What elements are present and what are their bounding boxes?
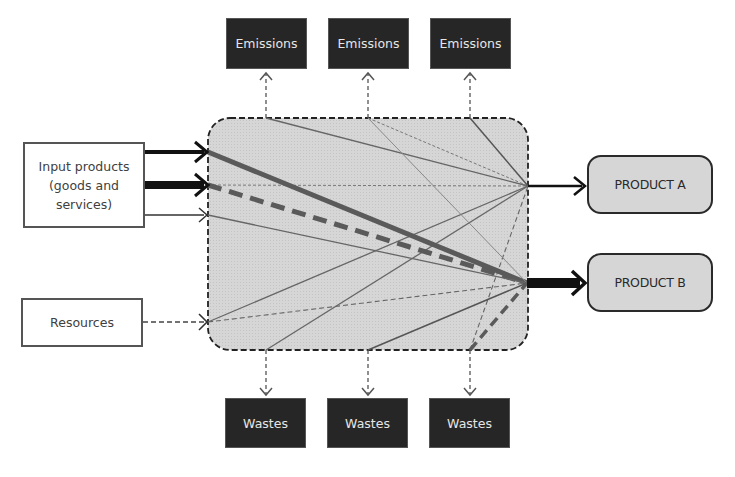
input-products-box: Input products (goods and services): [23, 142, 145, 228]
output-arrows: [527, 177, 585, 295]
wastes-label: Wastes: [243, 416, 288, 431]
product-a-box: PRODUCT A: [587, 155, 713, 214]
input-products-line-3: services): [56, 195, 112, 214]
wastes-label: Wastes: [345, 416, 390, 431]
product-b-box: PRODUCT B: [587, 253, 713, 312]
wastes-label: Wastes: [447, 416, 492, 431]
emissions-label: Emissions: [439, 36, 501, 51]
wastes-box-2: Wastes: [327, 398, 408, 448]
product-b-label: PRODUCT B: [614, 275, 685, 290]
emissions-label: Emissions: [235, 36, 297, 51]
input-products-line-2: (goods and: [49, 176, 119, 195]
resources-label: Resources: [50, 313, 114, 332]
input-products-line-1: Input products: [39, 157, 130, 176]
wastes-box-3: Wastes: [429, 398, 510, 448]
emissions-label: Emissions: [337, 36, 399, 51]
emissions-box-3: Emissions: [430, 18, 511, 69]
emissions-box-1: Emissions: [226, 18, 307, 69]
resources-box: Resources: [21, 298, 143, 347]
input-arrows: [143, 142, 208, 330]
emission-arrows: [260, 73, 476, 118]
emissions-box-2: Emissions: [328, 18, 409, 69]
wastes-box-1: Wastes: [225, 398, 306, 448]
waste-arrows: [260, 350, 476, 395]
product-a-label: PRODUCT A: [614, 177, 685, 192]
